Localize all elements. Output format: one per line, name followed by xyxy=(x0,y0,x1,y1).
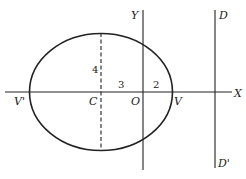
x-axis-label: X xyxy=(233,87,243,100)
center-label: C xyxy=(89,95,98,108)
left-vertex-label: V' xyxy=(14,95,25,108)
directrix-top-label: D xyxy=(218,9,228,22)
origin-label: O xyxy=(131,95,140,108)
center-to-origin-length: 3 xyxy=(118,79,124,90)
semi-minor-length: 4 xyxy=(92,64,98,75)
ellipse-diagram: Y D X V' C O V D' 4 3 2 xyxy=(0,0,246,179)
directrix-bottom-label: D' xyxy=(217,157,230,170)
y-axis-label: Y xyxy=(131,9,140,22)
origin-to-vertex-length: 2 xyxy=(153,79,159,90)
right-vertex-label: V xyxy=(174,95,183,108)
